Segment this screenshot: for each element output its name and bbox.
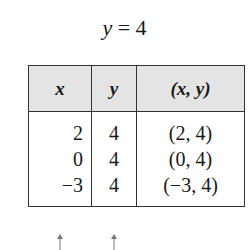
equation-operator: =: [118, 15, 130, 40]
cell-x: 0: [29, 146, 92, 172]
cell-xy: (2, 4): [137, 112, 245, 147]
up-arrow-icon: [55, 234, 65, 250]
cell-xy: (−3, 4): [137, 172, 245, 207]
table-row: 2 4 (2, 4): [29, 112, 245, 147]
cell-y: 4: [92, 172, 137, 207]
up-arrow-icon: [109, 234, 119, 250]
table-row: 0 4 (0, 4): [29, 146, 245, 172]
equation-lhs: y: [102, 15, 112, 40]
cell-x: 2: [29, 112, 92, 147]
header-y: y: [92, 66, 137, 112]
table-row: −3 4 (−3, 4): [29, 172, 245, 207]
equation-title: y = 4: [0, 15, 249, 41]
cell-xy: (0, 4): [137, 146, 245, 172]
values-table: x y (x, y) 2 4 (2, 4) 0 4 (0, 4) −3 4 (−…: [28, 65, 245, 207]
equation-rhs: 4: [136, 15, 147, 40]
cell-y: 4: [92, 112, 137, 147]
table-header-row: x y (x, y): [29, 66, 245, 112]
cell-x: −3: [29, 172, 92, 207]
cell-y: 4: [92, 146, 137, 172]
header-x: x: [29, 66, 92, 112]
header-xy: (x, y): [137, 66, 245, 112]
